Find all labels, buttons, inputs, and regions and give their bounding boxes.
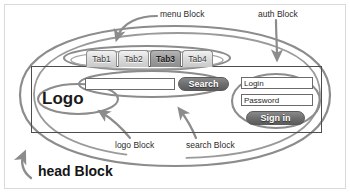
- logo-block-label: logo Block: [115, 140, 154, 150]
- search-input[interactable]: [85, 78, 175, 90]
- menu-block-label: menu Block: [160, 9, 204, 19]
- tab-3[interactable]: Tab3: [150, 50, 181, 67]
- head-block-label: head Block: [38, 163, 113, 179]
- search-button[interactable]: Search: [178, 77, 229, 91]
- diagram-canvas: Tab1 Tab2 Tab3 Tab4 Logo Search Sign in …: [0, 0, 350, 193]
- menu-block-tabbar[interactable]: Tab1 Tab2 Tab3 Tab4: [86, 49, 213, 67]
- auth-block-label: auth Block: [258, 9, 298, 19]
- tab-2[interactable]: Tab2: [118, 50, 149, 67]
- search-block-label: search Block: [186, 140, 235, 150]
- login-field[interactable]: [241, 77, 313, 89]
- sign-in-button[interactable]: Sign in: [246, 111, 305, 125]
- tab-1[interactable]: Tab1: [86, 50, 117, 67]
- password-field[interactable]: [241, 94, 313, 106]
- logo-text: Logo: [42, 89, 84, 109]
- tab-4[interactable]: Tab4: [182, 50, 213, 67]
